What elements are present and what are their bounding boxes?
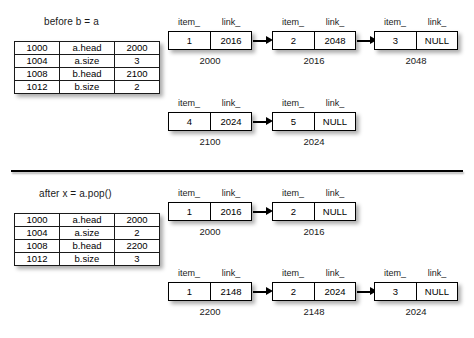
variable-name: a.size <box>60 227 115 240</box>
list-node: 1 2148 <box>168 282 252 301</box>
table-row: 1012 b.size 3 <box>15 253 160 266</box>
list-node: 2 NULL <box>272 202 356 221</box>
link-field-label: link_ <box>314 268 356 278</box>
table-row: 1012 b.size 2 <box>15 81 160 94</box>
panel-after-caption: after x = a.pop() <box>39 188 112 199</box>
node-link-value: 2024 <box>210 113 251 130</box>
node-header: item_ link_ <box>272 268 356 278</box>
node-address: 2016 <box>272 56 356 66</box>
node-link-value: NULL <box>314 113 355 130</box>
link-arrow-icon <box>253 287 273 296</box>
item-field-label: item_ <box>168 17 210 27</box>
link-field-label: link_ <box>416 17 458 27</box>
node-header: item_ link_ <box>272 98 356 108</box>
link-arrow-icon <box>253 207 273 216</box>
variable-value: 3 <box>115 55 160 68</box>
node-address: 2148 <box>272 307 356 317</box>
memory-address: 1012 <box>15 81 60 94</box>
variable-name: a.head <box>60 42 115 55</box>
node-header: item_ link_ <box>168 268 252 278</box>
table-row: 1008 b.head 2200 <box>15 240 160 253</box>
table-row: 1004 a.size 2 <box>15 227 160 240</box>
node-address: 2016 <box>272 227 356 237</box>
link-arrow-icon <box>253 36 273 45</box>
item-field-label: item_ <box>168 268 210 278</box>
item-field-label: item_ <box>374 268 416 278</box>
list-node: 1 2016 <box>168 31 252 50</box>
node-item-value: 5 <box>273 113 314 130</box>
node-link-value: NULL <box>416 32 457 49</box>
node-item-value: 1 <box>169 283 210 300</box>
node-link-value: NULL <box>416 283 457 300</box>
memory-address: 1004 <box>15 227 60 240</box>
variable-value: 2000 <box>115 42 160 55</box>
node-item-value: 2 <box>273 283 314 300</box>
link-field-label: link_ <box>314 98 356 108</box>
node-address: 2048 <box>374 56 458 66</box>
node-address: 2000 <box>168 227 252 237</box>
variable-value: 2 <box>115 81 160 94</box>
link-field-label: link_ <box>210 188 252 198</box>
memory-address: 1000 <box>15 214 60 227</box>
node-item-value: 1 <box>169 203 210 220</box>
node-link-value: 2024 <box>314 283 355 300</box>
link-field-label: link_ <box>210 98 252 108</box>
list-node: 4 2024 <box>168 112 252 131</box>
variable-name: a.size <box>60 55 115 68</box>
node-address: 2024 <box>272 137 356 147</box>
node-link-value: NULL <box>314 203 355 220</box>
variable-name: b.head <box>60 240 115 253</box>
node-address: 2024 <box>374 307 458 317</box>
link-field-label: link_ <box>314 188 356 198</box>
memory-table-after: 1000 a.head 2000 1004 a.size 2 1008 b.he… <box>14 213 160 266</box>
node-header: item_ link_ <box>168 17 252 27</box>
node-item-value: 1 <box>169 32 210 49</box>
link-arrow-icon <box>253 117 273 126</box>
variable-value: 3 <box>115 253 160 266</box>
memory-address: 1008 <box>15 240 60 253</box>
variable-value: 2200 <box>115 240 160 253</box>
memory-address: 1008 <box>15 68 60 81</box>
table-row: 1000 a.head 2000 <box>15 214 160 227</box>
variable-name: b.size <box>60 81 115 94</box>
variable-name: b.size <box>60 253 115 266</box>
list-node: 5 NULL <box>272 112 356 131</box>
node-header: item_ link_ <box>374 268 458 278</box>
link-field-label: link_ <box>416 268 458 278</box>
link-field-label: link_ <box>210 268 252 278</box>
node-header: item_ link_ <box>168 188 252 198</box>
memory-address: 1012 <box>15 253 60 266</box>
list-node: 3 NULL <box>374 282 458 301</box>
panel-before-caption: before b = a <box>44 16 99 27</box>
node-item-value: 3 <box>375 283 416 300</box>
variable-name: a.head <box>60 214 115 227</box>
item-field-label: item_ <box>168 188 210 198</box>
table-row: 1000 a.head 2000 <box>15 42 160 55</box>
variable-value: 2000 <box>115 214 160 227</box>
table-row: 1004 a.size 3 <box>15 55 160 68</box>
node-address: 2200 <box>168 307 252 317</box>
table-row: 1008 b.head 2100 <box>15 68 160 81</box>
memory-address: 1004 <box>15 55 60 68</box>
item-field-label: item_ <box>272 98 314 108</box>
item-field-label: item_ <box>272 17 314 27</box>
variable-value: 2100 <box>115 68 160 81</box>
node-item-value: 4 <box>169 113 210 130</box>
memory-table-before: 1000 a.head 2000 1004 a.size 3 1008 b.he… <box>14 41 160 94</box>
node-item-value: 2 <box>273 32 314 49</box>
variable-name: b.head <box>60 68 115 81</box>
panel-divider <box>11 170 463 172</box>
variable-value: 2 <box>115 227 160 240</box>
list-node: 3 NULL <box>374 31 458 50</box>
node-link-value: 2148 <box>210 283 251 300</box>
node-header: item_ link_ <box>272 17 356 27</box>
list-node: 2 2024 <box>272 282 356 301</box>
node-link-value: 2016 <box>210 203 251 220</box>
node-address: 2100 <box>168 137 252 147</box>
node-item-value: 3 <box>375 32 416 49</box>
node-address: 2000 <box>168 56 252 66</box>
link-field-label: link_ <box>314 17 356 27</box>
node-header: item_ link_ <box>168 98 252 108</box>
link-field-label: link_ <box>210 17 252 27</box>
list-node: 2 2048 <box>272 31 356 50</box>
